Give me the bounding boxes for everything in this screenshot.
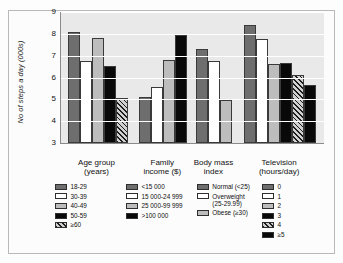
bar: [80, 61, 92, 143]
legend-swatch-icon: [197, 210, 209, 216]
gridline: [61, 78, 324, 79]
gridline: [61, 99, 324, 100]
category-label: Body massindex: [192, 158, 236, 177]
gridline: [61, 121, 324, 122]
legend-item[interactable]: 0: [262, 183, 333, 190]
gridline: [61, 34, 324, 35]
legend-column: 18-2930-3940-4950-59≥60: [55, 183, 126, 238]
legend-label: 25 000-99 999: [141, 202, 182, 209]
legend-item[interactable]: Obese (≥30): [197, 209, 262, 216]
legend-label: 0: [278, 183, 282, 190]
category-label-line: Age group: [60, 158, 133, 167]
legend-label: Normal (<25): [212, 183, 249, 190]
bar: [208, 61, 220, 143]
category-label-line: (years): [60, 167, 133, 176]
legend-swatch-icon: [55, 184, 67, 190]
chart-figure: No of steps a day (000s) 9876543 Age gro…: [0, 0, 343, 263]
legend-label: 50-59: [71, 212, 87, 219]
category-label-line: Television: [235, 158, 323, 167]
legend-swatch-icon: [262, 193, 274, 199]
plot-area: [60, 12, 324, 144]
legend-swatch-icon: [262, 203, 274, 209]
bar: [304, 85, 316, 143]
category-label-line: index: [192, 167, 236, 176]
bar: [151, 87, 163, 143]
bar: [244, 25, 256, 143]
legend-item[interactable]: Normal (<25): [197, 183, 262, 190]
bar: [196, 49, 208, 143]
y-tick-label: 6: [52, 74, 56, 82]
legend-item[interactable]: Overweight (25-29.99): [197, 193, 262, 207]
bar: [268, 64, 280, 143]
legend-swatch-icon: [262, 184, 274, 190]
legend-swatch-icon: [55, 222, 67, 228]
legend-item[interactable]: 4: [262, 221, 333, 228]
legend-swatch-icon: [197, 184, 209, 190]
category-label: Familyincome ($): [133, 158, 191, 177]
legend-label: <15 000: [141, 183, 164, 190]
category-label-line: (hours/day): [235, 167, 323, 176]
legend-swatch-icon: [126, 203, 138, 209]
legend-item[interactable]: 50-59: [55, 212, 126, 219]
legend-swatch-icon: [262, 222, 274, 228]
legend-label: Obese (≥30): [212, 209, 247, 216]
legend-label: ≥5: [278, 231, 285, 238]
legend-label: >100 000: [141, 212, 168, 219]
plot-area-wrapper: No of steps a day (000s) 9876543: [22, 12, 324, 157]
legend-item[interactable]: <15 000: [126, 183, 197, 190]
category-label-line: Family: [133, 158, 191, 167]
bar: [280, 63, 292, 143]
category-label: Age group(years): [60, 158, 133, 177]
legend-item[interactable]: ≥5: [262, 231, 333, 238]
legend-item[interactable]: 25 000-99 999: [126, 202, 197, 209]
legend-label: 15 000-24 999: [141, 193, 182, 200]
y-axis-ticks: 9876543: [44, 12, 56, 143]
bar: [175, 35, 187, 143]
legend-label: 30-39: [71, 193, 87, 200]
y-tick-label: 4: [52, 117, 56, 125]
legend-item[interactable]: 18-29: [55, 183, 126, 190]
gridline: [61, 12, 324, 13]
y-tick-label: 8: [52, 30, 56, 38]
legend-swatch-icon: [55, 213, 67, 219]
legend-swatch-icon: [126, 184, 138, 190]
legend-column: Normal (<25)Overweight (25-29.99)Obese (…: [197, 183, 262, 238]
category-label-line: income ($): [133, 167, 191, 176]
legend-label: 3: [278, 212, 282, 219]
y-tick-label: 5: [52, 95, 56, 103]
legend-swatch-icon: [55, 203, 67, 209]
category-label-line: Body mass: [192, 158, 236, 167]
legend-column: <15 00015 000-24 99925 000-99 999>100 00…: [126, 183, 197, 238]
legend-label: ≥60: [71, 221, 82, 228]
bar: [139, 97, 151, 143]
legend-label: 2: [278, 202, 282, 209]
y-tick-label: 7: [52, 52, 56, 60]
legend-item[interactable]: 2: [262, 202, 333, 209]
legend-swatch-icon: [126, 193, 138, 199]
y-tick-label: 3: [52, 139, 56, 147]
legend-item[interactable]: 40-49: [55, 202, 126, 209]
legend-swatch-icon: [55, 193, 67, 199]
legend-label: 18-29: [71, 183, 87, 190]
legend-label: 40-49: [71, 202, 87, 209]
legend-label: 4: [278, 221, 282, 228]
legend-container: 18-2930-3940-4950-59≥60<15 00015 000-24 …: [55, 183, 333, 238]
legend-column: 01234≥5: [262, 183, 333, 238]
legend-swatch-icon: [197, 193, 209, 199]
legend-label: 1: [278, 193, 282, 200]
legend-swatch-icon: [126, 213, 138, 219]
legend-item[interactable]: ≥60: [55, 221, 126, 228]
bar: [92, 38, 104, 143]
y-tick-label: 9: [52, 8, 56, 16]
bar: [68, 32, 80, 143]
legend-item[interactable]: 3: [262, 212, 333, 219]
category-labels: Age group(years)Familyincome ($)Body mas…: [60, 158, 323, 177]
y-axis-label: No of steps a day (000s): [16, 34, 25, 130]
legend-item[interactable]: 30-39: [55, 193, 126, 200]
legend-item[interactable]: >100 000: [126, 212, 197, 219]
legend-item[interactable]: 15 000-24 999: [126, 193, 197, 200]
gridline: [61, 56, 324, 57]
bar: [292, 75, 304, 143]
legend-item[interactable]: 1: [262, 193, 333, 200]
legend-label: Overweight (25-29.99): [212, 193, 244, 207]
